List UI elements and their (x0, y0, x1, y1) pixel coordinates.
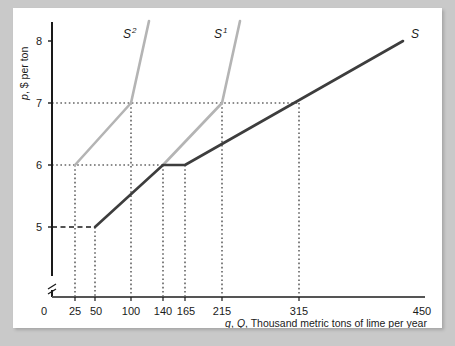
curve-label-s2-group: S 2 (123, 26, 137, 41)
x-axis-title-comma: , (231, 317, 234, 328)
curve-s1 (163, 21, 240, 165)
x-axis-title-symbol-Q: Q (237, 317, 245, 328)
figure-root: 8 7 6 5 0 25 50 100 140 (0, 0, 455, 346)
y-tick-label-5: 5 (36, 221, 42, 233)
chart-card: 8 7 6 5 0 25 50 100 140 (13, 8, 442, 328)
x-tick-label-165: 165 (177, 305, 195, 317)
x-tick-label-140: 140 (154, 305, 172, 317)
x-tick-label-315: 315 (290, 305, 308, 317)
y-tick-label-7: 7 (36, 97, 42, 109)
y-tick-labels: 8 7 6 5 (36, 35, 42, 233)
x-tick-label-215: 215 (213, 305, 231, 317)
x-tick-label-50: 50 (90, 305, 102, 317)
curve-label-s: S (411, 27, 419, 41)
curve-label-s2-superscript: 2 (131, 26, 137, 35)
x-tick-labels: 0 25 50 100 140 165 215 315 450 (41, 305, 431, 317)
curve-label-s1-group: S 1 (214, 26, 227, 41)
x-tick-label-0: 0 (41, 305, 47, 317)
x-axis-title-group: q , Q , Thousand metric tons of lime per… (225, 317, 427, 328)
curve-s2 (75, 21, 149, 165)
curve-label-s1-superscript: 1 (223, 26, 227, 35)
y-axis-title-text: , $ per ton (18, 47, 30, 94)
x-axis-title-text: , Thousand metric tons of lime per year (245, 317, 427, 328)
x-tick-label-100: 100 (122, 305, 140, 317)
x-tick-label-450: 450 (413, 305, 431, 317)
axes (48, 22, 425, 297)
y-axis-title-symbol: p (18, 94, 30, 101)
x-tick-label-25: 25 (69, 305, 81, 317)
curve-s (95, 41, 403, 227)
y-tick-label-6: 6 (36, 159, 42, 171)
y-axis-title-group: p , $ per ton (18, 47, 30, 101)
quantity-droplines (75, 103, 299, 297)
curve-label-s1: S (214, 27, 222, 41)
curve-label-s2: S (123, 27, 131, 41)
y-tick-label-8: 8 (36, 35, 42, 47)
supply-curve-chart: 8 7 6 5 0 25 50 100 140 (13, 8, 442, 328)
